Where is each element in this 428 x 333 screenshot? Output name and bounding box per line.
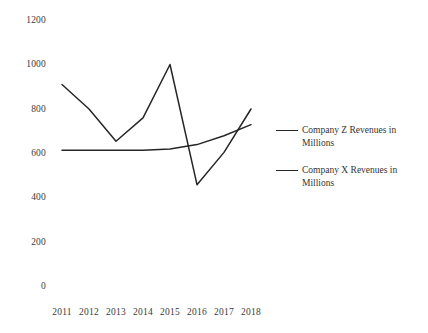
series-line-company-x — [62, 125, 251, 151]
legend-item-label: Company Z Revenues in Millions — [302, 124, 426, 150]
legend-item-company-x: Company X Revenues in Millions — [276, 164, 426, 190]
legend-item-company-z: Company Z Revenues in Millions — [276, 124, 426, 150]
legend-line-marker-icon — [276, 170, 298, 171]
line-chart-figure: 1200 1000 800 600 400 200 0 2011 2012 20… — [0, 0, 428, 333]
legend-line-marker-icon — [276, 130, 298, 131]
series-line-company-z — [62, 65, 251, 185]
legend-item-label: Company X Revenues in Millions — [302, 164, 426, 190]
chart-legend: Company Z Revenues in Millions Company X… — [276, 124, 426, 204]
